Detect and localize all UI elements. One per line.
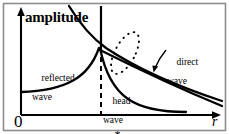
critical-distance-superscript: * [114, 128, 120, 134]
direct-wave-label: direct wave [167, 48, 198, 105]
direct-wave-upper-curve [69, 6, 222, 101]
x-axis-title: r [212, 115, 217, 129]
direct-wave-label-line1: direct [177, 57, 199, 67]
y-axis-title: amplitude [25, 10, 88, 25]
direct-wave-leader-arrow [152, 50, 166, 73]
amplitude-vs-distance-figure: amplitude reflected wave head wave direc… [0, 0, 229, 134]
y-axis [17, 7, 25, 115]
head-wave-label-line1: head [113, 96, 131, 106]
reflected-wave-label: reflected wave [32, 64, 75, 121]
x-axis-origin-label: 0 [14, 113, 23, 130]
crossover-highlight-ellipse [105, 28, 144, 78]
direct-wave-label-line2: wave [167, 77, 198, 87]
reflected-wave-label-line1: reflected [42, 73, 75, 83]
x-axis-critical-distance-label: r* [95, 115, 120, 134]
reflected-wave-label-line2: wave [32, 93, 75, 103]
